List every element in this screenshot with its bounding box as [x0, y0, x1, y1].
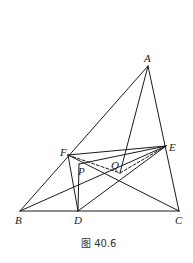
label-P: P [77, 165, 85, 177]
segment-CA [148, 66, 179, 211]
segment-PE [79, 146, 166, 164]
label-E: E [168, 141, 176, 153]
segment-BE [20, 146, 166, 211]
geometry-figure: A B C D E F P Q 图 40.6 [0, 0, 193, 263]
label-A: A [143, 52, 151, 64]
label-Q: Q [111, 159, 119, 171]
segment-DE [78, 146, 166, 211]
figure-caption: 图 40.6 [81, 238, 116, 249]
label-B: B [15, 214, 22, 226]
label-F: F [59, 146, 67, 158]
segment-FD [68, 155, 78, 211]
label-C: C [175, 214, 183, 226]
segment-FC [68, 155, 179, 211]
segment-FE [68, 146, 166, 155]
label-D: D [73, 214, 82, 226]
